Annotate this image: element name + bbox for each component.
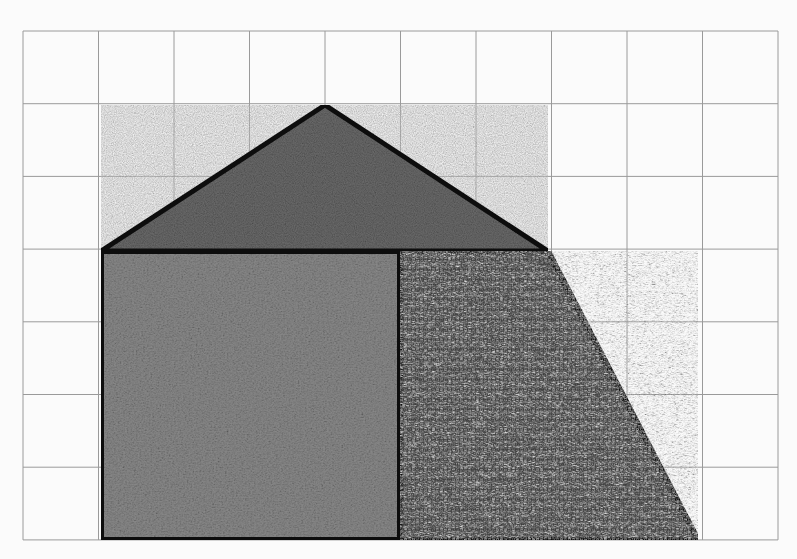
triangle-roof-shape: [101, 105, 548, 251]
diagram-canvas: [0, 0, 797, 559]
square-left-shape: [101, 251, 400, 540]
trapezoid-right-shape: [400, 251, 698, 540]
